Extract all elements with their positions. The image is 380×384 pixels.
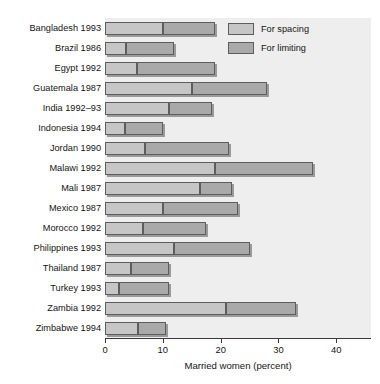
- bar-shadow: [107, 295, 171, 297]
- bar-segment-spacing: [105, 42, 126, 55]
- bar-segment-limiting: [192, 82, 267, 95]
- bar-segment-spacing: [105, 282, 119, 295]
- bar-segment-limiting: [131, 262, 169, 275]
- bar-segment-limiting: [226, 302, 295, 315]
- bar-shadow-edge: [212, 104, 214, 117]
- bar-shadow: [107, 135, 165, 137]
- bar-row: [0, 322, 380, 335]
- legend-swatch-spacing-icon: [228, 23, 254, 35]
- bar-shadow-edge: [169, 284, 171, 297]
- bar-shadow: [107, 35, 217, 37]
- bar-segment-limiting: [137, 62, 214, 75]
- bar-shadow: [107, 75, 217, 77]
- bar-segment-limiting: [163, 22, 215, 35]
- bar-segment-spacing: [105, 122, 125, 135]
- bar-row: [0, 202, 380, 215]
- bar-segment-limiting: [143, 222, 207, 235]
- x-axis-line: [105, 338, 371, 339]
- legend-swatch-limiting-icon: [228, 42, 254, 54]
- bar-shadow: [107, 215, 240, 217]
- bar-segment-limiting: [163, 202, 238, 215]
- bar-shadow-edge: [313, 164, 315, 177]
- bar-segment-limiting: [169, 102, 212, 115]
- bar-segment-spacing: [105, 22, 163, 35]
- bar-segment-spacing: [105, 262, 131, 275]
- bar-shadow: [107, 335, 168, 337]
- bar-segment-limiting: [138, 322, 166, 335]
- bar-shadow-edge: [250, 244, 252, 257]
- bar-segment-spacing: [105, 102, 169, 115]
- bar-shadow-edge: [215, 24, 217, 37]
- bar-shadow: [107, 155, 231, 157]
- bar-row: [0, 222, 380, 235]
- bar-shadow-edge: [267, 84, 269, 97]
- bar-shadow-edge: [163, 124, 165, 137]
- bar-segment-spacing: [105, 62, 137, 75]
- x-axis-tick: [163, 338, 164, 343]
- bar-segment-limiting: [174, 242, 249, 255]
- x-axis-tick-label: 0: [102, 344, 107, 355]
- bar-shadow-edge: [166, 324, 168, 337]
- bar-shadow-edge: [296, 304, 298, 317]
- bar-shadow: [107, 195, 234, 197]
- bar-segment-limiting: [125, 122, 163, 135]
- bar-shadow: [107, 255, 252, 257]
- bar-shadow-edge: [169, 264, 171, 277]
- x-axis-tick: [336, 338, 337, 343]
- bar-row: [0, 42, 380, 55]
- bar-segment-limiting: [126, 42, 174, 55]
- legend-label-spacing: For spacing: [261, 23, 309, 36]
- bar-segment-limiting: [200, 182, 232, 195]
- bar-row: [0, 302, 380, 315]
- x-axis-tick-label: 20: [215, 344, 225, 355]
- bar-shadow-edge: [215, 64, 217, 77]
- x-axis-tick-label: 30: [273, 344, 283, 355]
- bar-row: [0, 22, 380, 35]
- bar-row: [0, 282, 380, 295]
- bar-shadow: [107, 115, 214, 117]
- bar-row: [0, 82, 380, 95]
- bar-row: [0, 122, 380, 135]
- bar-shadow: [107, 55, 176, 57]
- bar-row: [0, 162, 380, 175]
- bar-shadow-edge: [232, 184, 234, 197]
- bar-shadow: [107, 315, 298, 317]
- bar-shadow-edge: [238, 204, 240, 217]
- bar-segment-spacing: [105, 162, 215, 175]
- bar-row: [0, 102, 380, 115]
- bar-segment-spacing: [105, 82, 192, 95]
- bar-row: [0, 62, 380, 75]
- bar-row: [0, 142, 380, 155]
- bar-row: [0, 182, 380, 195]
- bar-shadow: [107, 275, 171, 277]
- x-axis-title: Married women (percent): [105, 360, 371, 371]
- bar-shadow-edge: [206, 224, 208, 237]
- bar-row: [0, 242, 380, 255]
- bar-segment-limiting: [215, 162, 313, 175]
- bar-segment-spacing: [105, 222, 143, 235]
- bar-row: [0, 262, 380, 275]
- bar-segment-spacing: [105, 182, 200, 195]
- x-axis-tick: [221, 338, 222, 343]
- bar-shadow: [107, 95, 269, 97]
- bar-shadow-edge: [229, 144, 231, 157]
- bar-shadow: [107, 235, 208, 237]
- stacked-bar-chart: Bangladesh 1993Brazil 1986Egypt 1992Guat…: [0, 0, 380, 384]
- bar-shadow-edge: [174, 44, 176, 57]
- x-axis-tick-label: 10: [158, 344, 168, 355]
- x-axis-tick: [105, 338, 106, 343]
- x-axis-tick: [278, 338, 279, 343]
- bar-shadow: [107, 175, 315, 177]
- bar-segment-limiting: [145, 142, 229, 155]
- bar-segment-spacing: [105, 202, 163, 215]
- legend-label-limiting: For limiting: [261, 42, 306, 55]
- bar-segment-spacing: [105, 302, 226, 315]
- bar-segment-spacing: [105, 142, 145, 155]
- bar-segment-limiting: [119, 282, 168, 295]
- bar-segment-spacing: [105, 242, 174, 255]
- bar-segment-spacing: [105, 322, 138, 335]
- x-axis-tick-label: 40: [331, 344, 341, 355]
